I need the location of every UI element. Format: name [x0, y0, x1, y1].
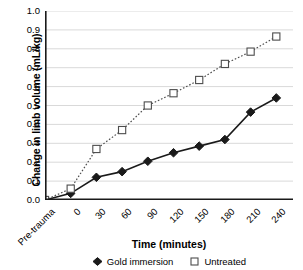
- series-line-0: [45, 98, 276, 200]
- x-axis-title: Time (minutes): [45, 238, 293, 250]
- chart-legend: Gold immersionUntreated: [45, 257, 293, 267]
- y-tick-label: 0.8: [16, 44, 40, 54]
- y-tick-label: 0.6: [16, 82, 40, 92]
- y-tick-label: 0.9: [16, 25, 40, 35]
- y-tick-label: 0.0: [16, 195, 40, 205]
- y-tick-label: 0.1: [16, 176, 40, 186]
- data-point-marker: [92, 173, 101, 182]
- y-tick-label: 1.0: [16, 6, 40, 16]
- legend-entry-0: Gold immersion: [92, 257, 174, 267]
- data-point-marker: [93, 145, 100, 152]
- data-point-marker: [67, 185, 74, 192]
- data-point-marker: [169, 148, 178, 157]
- data-point-marker: [119, 126, 126, 133]
- legend-label: Gold immersion: [107, 257, 174, 267]
- filled-diamond-icon: [92, 257, 103, 266]
- legend-entry-1: Untreated: [189, 257, 246, 267]
- y-axis-tick-labels: 1.00.90.80.70.60.50.40.30.20.10.0: [12, 0, 40, 264]
- legend-label: Untreated: [204, 257, 246, 267]
- y-tick-label: 0.2: [16, 157, 40, 167]
- plot-svg: [45, 11, 293, 200]
- gridlines: [45, 11, 293, 181]
- data-point-marker: [144, 102, 151, 109]
- data-point-marker: [221, 60, 228, 67]
- data-series-layer: [45, 33, 281, 200]
- series-line-1: [45, 37, 276, 200]
- y-tick-label: 0.4: [16, 119, 40, 129]
- plot-area: [45, 11, 293, 200]
- data-point-marker: [118, 167, 127, 176]
- data-point-marker: [273, 33, 280, 40]
- open-square-icon: [189, 257, 200, 266]
- data-point-marker: [272, 94, 281, 103]
- data-point-marker: [196, 76, 203, 83]
- data-point-marker: [170, 90, 177, 97]
- data-point-marker: [144, 157, 153, 166]
- y-tick-label: 0.5: [16, 101, 40, 111]
- data-point-marker: [247, 48, 254, 55]
- y-tick-label: 0.7: [16, 63, 40, 73]
- y-tick-label: 0.3: [16, 138, 40, 148]
